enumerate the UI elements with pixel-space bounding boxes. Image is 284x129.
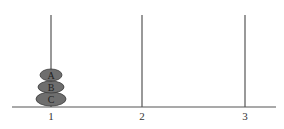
disk-b: B <box>38 81 64 93</box>
towers-of-hanoi-diagram: C B A 1 2 3 <box>0 0 284 129</box>
peg-label-2: 2 <box>139 110 145 122</box>
peg-label-3: 3 <box>242 110 248 122</box>
svg-text:C: C <box>48 94 55 105</box>
peg-label-1: 1 <box>48 110 54 122</box>
disk-a: A <box>40 69 62 81</box>
svg-text:A: A <box>47 70 55 81</box>
disk-c: C <box>36 92 66 106</box>
svg-text:B: B <box>48 82 55 93</box>
